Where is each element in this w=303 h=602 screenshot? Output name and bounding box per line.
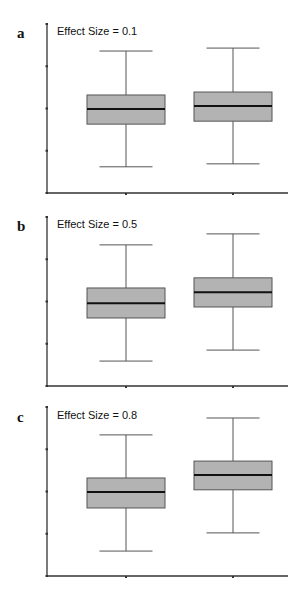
y-tick	[46, 575, 49, 577]
y-tick	[46, 65, 49, 67]
y-tick	[46, 258, 49, 260]
y-tick	[46, 406, 49, 408]
y-tick	[46, 385, 49, 387]
y-tick	[46, 491, 49, 493]
y-tick	[46, 23, 49, 25]
x-tick	[232, 193, 234, 195]
x-tick	[125, 576, 127, 578]
y-tick	[46, 150, 49, 152]
y-tick	[46, 301, 49, 303]
x-tick	[125, 386, 127, 388]
iqr-box	[87, 478, 165, 508]
y-tick	[46, 108, 49, 110]
x-tick	[232, 386, 234, 388]
x-tick	[232, 576, 234, 578]
boxplot-canvas	[0, 0, 303, 602]
y-tick	[46, 343, 49, 345]
y-tick	[46, 448, 49, 450]
x-tick	[125, 193, 127, 195]
y-tick	[46, 216, 49, 218]
y-tick	[46, 533, 49, 535]
y-tick	[46, 192, 49, 194]
